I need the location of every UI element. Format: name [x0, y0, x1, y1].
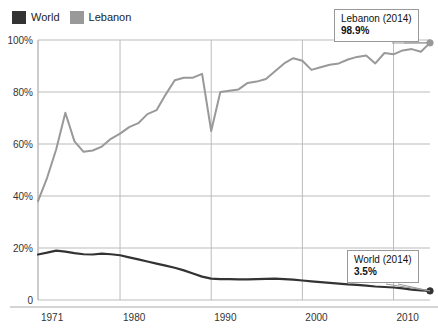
legend-swatch-icon	[70, 11, 84, 24]
x-tick-label: 1990	[214, 312, 237, 323]
annotation-world: World (2014) 3.5%	[347, 250, 419, 283]
legend-label-lebanon: Lebanon	[89, 11, 132, 24]
legend-label-world: World	[31, 11, 60, 24]
legend-item-lebanon: Lebanon	[70, 11, 132, 24]
chart-container: 020%40%60%80%100% 19711980199020002010 W…	[0, 0, 438, 331]
x-tick-label: 2010	[397, 312, 420, 323]
legend-swatch-icon	[12, 11, 26, 24]
annotation-world-title: World (2014)	[354, 254, 412, 266]
y-tick-label: 60%	[13, 139, 33, 150]
y-tick-label: 20%	[13, 243, 33, 254]
y-tick-label: 0	[27, 295, 33, 306]
x-tick-label: 2000	[305, 312, 328, 323]
annotation-world-value: 3.5%	[354, 266, 412, 278]
chart-legend: World Lebanon	[12, 11, 131, 24]
x-tick-label: 1971	[41, 312, 64, 323]
x-tick-label: 1980	[123, 312, 146, 323]
y-tick-label: 80%	[13, 87, 33, 98]
annotation-lebanon: Lebanon (2014) 98.9%	[334, 9, 419, 42]
annotation-lebanon-value: 98.9%	[341, 25, 412, 37]
series-line-lebanon	[38, 43, 430, 201]
y-tick-label: 100%	[7, 35, 33, 46]
annotation-lebanon-title: Lebanon (2014)	[341, 13, 412, 25]
y-tick-label: 40%	[13, 191, 33, 202]
legend-item-world: World	[12, 11, 60, 24]
y-axis-tick-labels: 020%40%60%80%100%	[7, 35, 33, 306]
x-axis-tick-labels: 19711980199020002010	[41, 312, 419, 323]
